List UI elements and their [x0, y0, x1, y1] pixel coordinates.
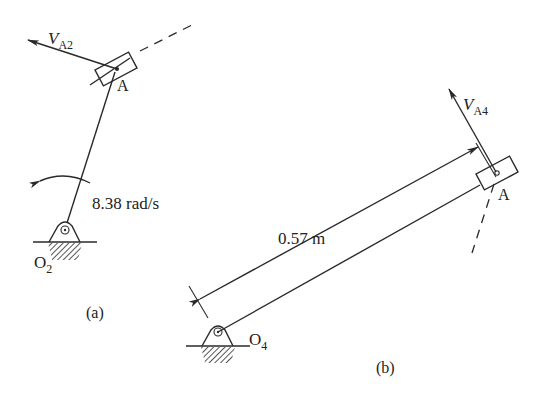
- slider-axis-dashed-a: [140, 25, 192, 51]
- ground-pivot-o4: [186, 326, 250, 363]
- caption-b: (b): [376, 359, 395, 377]
- pivot-label-o2: O2: [34, 253, 52, 276]
- caption-a: (a): [86, 304, 104, 322]
- figure-b: 0.57 m VA4 A O4 (b): [186, 89, 518, 377]
- point-label-b: A: [498, 186, 510, 203]
- length-label: 0.57 m: [278, 229, 325, 248]
- pivot-label-o4: O4: [249, 330, 267, 353]
- mechanism-diagram: VA2 A 8.38 rad/s O2 (a) 0.57 m: [0, 0, 546, 395]
- figure-a: VA2 A 8.38 rad/s O2 (a): [28, 25, 192, 322]
- dimension-extension-o4: [189, 286, 208, 318]
- angular-velocity-label: 8.38 rad/s: [92, 194, 159, 213]
- pin-b: [495, 171, 499, 175]
- guide-axis-dashed-b: [472, 184, 494, 253]
- slider-block-b: [476, 156, 518, 190]
- link-o4-a: [218, 185, 480, 332]
- angular-velocity-arrow: [40, 176, 90, 183]
- dimension-line: [200, 147, 478, 299]
- velocity-label-va2: VA2: [48, 29, 73, 52]
- velocity-label-va4: VA4: [463, 95, 488, 118]
- point-label-a: A: [117, 77, 129, 94]
